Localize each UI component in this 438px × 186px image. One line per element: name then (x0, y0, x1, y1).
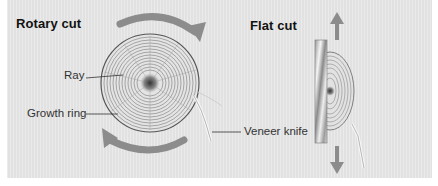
rotary-cut-title: Rotary cut (16, 16, 81, 31)
flat-cut-plate-icon (315, 40, 327, 143)
ray-label: Ray (64, 69, 84, 81)
arrow-up-icon (330, 12, 344, 40)
half-log-icon (306, 52, 354, 130)
growth-ring-label: Growth ring (27, 107, 86, 119)
log-cross-section-icon (101, 34, 199, 132)
flat-cut-title: Flat cut (250, 18, 297, 33)
veneer-knife-label: Veneer knife (244, 125, 308, 137)
veneer-knife-icon (194, 92, 222, 141)
flat-cut-knife-icon (352, 124, 364, 168)
arrow-down-icon (330, 146, 344, 174)
